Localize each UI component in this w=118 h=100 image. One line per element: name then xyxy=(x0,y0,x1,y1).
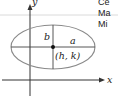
x-axis-label: x xyxy=(107,74,113,85)
semi-minor-label: b xyxy=(44,31,50,42)
side-text-line-1: Ce xyxy=(98,0,110,7)
semi-major-label: a xyxy=(70,35,76,46)
center-label: (h, k) xyxy=(55,50,81,61)
x-axis-arrow-icon xyxy=(99,78,105,83)
side-text-line-3: Mi xyxy=(98,19,108,29)
x-axis xyxy=(2,78,105,83)
side-text-line-2: Ma xyxy=(98,8,111,18)
y-axis-label: y xyxy=(31,0,38,7)
y-axis xyxy=(28,4,33,96)
center-point xyxy=(51,45,55,49)
